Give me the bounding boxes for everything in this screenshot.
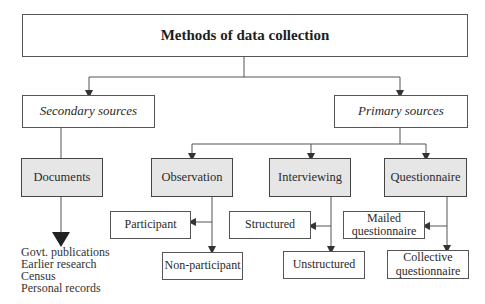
structured-box: Structured [229,211,311,239]
interviewing-box: Interviewing [269,158,351,197]
participant-label: Participant [125,218,177,231]
participant-box: Participant [110,211,191,239]
structured-label: Structured [245,218,295,231]
documents-label: Documents [34,171,91,185]
non-participant-box: Non-participant [162,252,243,280]
interviewing-label: Interviewing [278,171,342,185]
primary-sources-label: Primary sources [358,104,444,118]
unstructured-label: Unstructured [293,258,356,271]
collective-questionnaire-box: Collective questionnaire [387,250,469,279]
documents-box: Documents [21,158,103,197]
secondary-sources-label: Secondary sources [40,104,137,118]
questionnaire-box: Questionnaire [384,158,467,197]
secondary-sources-box: Secondary sources [22,95,155,128]
observation-box: Observation [151,158,233,197]
documents-examples-list: Govt. publications Earlier research Cens… [21,246,110,294]
non-participant-label: Non-participant [165,259,241,272]
title-box: Methods of data collection [22,14,468,57]
mailed-questionnaire-box: Mailed questionnaire [343,211,425,239]
observation-label: Observation [161,171,222,185]
primary-sources-box: Primary sources [334,95,468,128]
title-text: Methods of data collection [161,27,330,44]
questionnaire-label: Questionnaire [390,171,460,185]
list-item: Personal records [21,282,110,294]
unstructured-box: Unstructured [283,251,365,279]
mailed-questionnaire-label: Mailed questionnaire [350,212,418,238]
collective-questionnaire-label: Collective questionnaire [394,251,462,277]
